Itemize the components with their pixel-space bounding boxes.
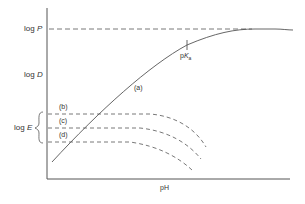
curve-b-label: (b) bbox=[59, 103, 68, 110]
logE-brace bbox=[35, 112, 43, 143]
curve-c-label: (c) bbox=[59, 117, 67, 124]
logD-label: log D bbox=[24, 70, 43, 79]
curve-a-label: (a) bbox=[134, 84, 143, 91]
pka-label: pKa bbox=[180, 52, 191, 61]
curve-c bbox=[48, 128, 201, 159]
x-axis-label: pH bbox=[160, 184, 169, 191]
curve-d-label: (d) bbox=[59, 131, 68, 138]
curve-d bbox=[48, 142, 192, 170]
logP-label: log P bbox=[24, 24, 42, 33]
diagram-canvas bbox=[0, 0, 305, 204]
logE-label: log E bbox=[14, 123, 32, 132]
curve-a bbox=[52, 29, 293, 162]
